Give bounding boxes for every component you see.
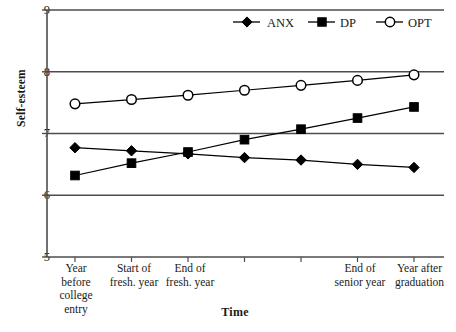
x-tick-label-6: Year after graduation: [383, 262, 456, 289]
x-tick-label-2: End of fresh. year: [158, 262, 222, 289]
legend-label-dp: DP: [340, 17, 356, 30]
x-tick-label-0: Year before college entry: [45, 262, 107, 316]
data-series-layer: [70, 70, 419, 180]
x-axis-title: Time: [190, 305, 280, 320]
legend-markers: [233, 17, 403, 27]
gridlines: [47, 10, 444, 195]
self-esteem-line-chart: Self-esteem 9 8 7 6 5 Year before colleg…: [0, 0, 456, 332]
legend-label-opt: OPT: [408, 17, 432, 30]
legend-label-anx: ANX: [267, 17, 294, 30]
